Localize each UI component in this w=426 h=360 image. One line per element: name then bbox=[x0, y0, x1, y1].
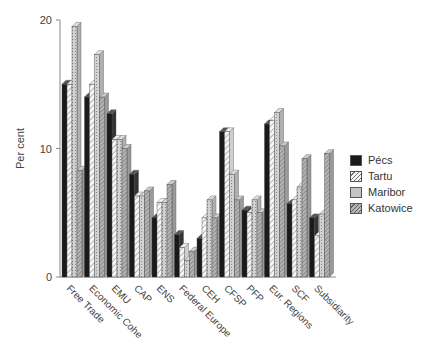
bar-group bbox=[242, 196, 266, 277]
y-tick-label: 0 bbox=[46, 271, 52, 283]
bar-group bbox=[220, 128, 244, 277]
legend-label: Pécs bbox=[368, 154, 392, 166]
bar bbox=[242, 210, 247, 277]
bar-group bbox=[265, 109, 289, 277]
bar-group bbox=[310, 150, 334, 277]
bar bbox=[257, 213, 262, 277]
katowice-swatch-icon bbox=[350, 203, 362, 214]
bar bbox=[252, 200, 257, 277]
bar bbox=[62, 84, 67, 277]
legend-label: Katowice bbox=[368, 202, 413, 214]
bar bbox=[292, 200, 297, 277]
x-category-label: ENS bbox=[155, 283, 178, 306]
bar bbox=[302, 159, 307, 277]
y-tick-label: 10 bbox=[40, 143, 52, 155]
x-category-label: Subsidiarity bbox=[312, 283, 356, 327]
bar bbox=[107, 114, 112, 277]
bar bbox=[140, 196, 145, 277]
legend-label: Tartu bbox=[368, 170, 392, 182]
bar bbox=[212, 218, 217, 277]
bar bbox=[275, 113, 280, 277]
bar bbox=[190, 251, 195, 277]
bar bbox=[152, 218, 157, 277]
y-axis-title: Per cent bbox=[14, 128, 26, 169]
bar bbox=[247, 213, 252, 277]
bar bbox=[297, 187, 302, 277]
bar bbox=[135, 196, 140, 277]
bar-group bbox=[85, 51, 109, 277]
bar-groups bbox=[62, 22, 334, 277]
bar bbox=[180, 247, 185, 277]
bar bbox=[112, 140, 117, 277]
bar bbox=[145, 191, 150, 277]
bar bbox=[230, 174, 235, 277]
legend: Pécs Tartu Maribor Katowice bbox=[350, 152, 413, 216]
bar bbox=[85, 97, 90, 277]
bar-group bbox=[62, 22, 86, 277]
legend-item-katowice: Katowice bbox=[350, 200, 413, 216]
bar bbox=[325, 154, 330, 277]
bar bbox=[270, 120, 275, 277]
bar-group bbox=[152, 180, 176, 277]
bar bbox=[95, 55, 100, 277]
x-category-label: CAP bbox=[132, 283, 155, 306]
bar bbox=[310, 218, 315, 277]
bar-group bbox=[197, 196, 221, 277]
bar-group bbox=[107, 110, 131, 277]
x-axis-labels: Free TradeEconomic CoheEMUCAPENSFederal … bbox=[65, 283, 357, 341]
bar bbox=[162, 202, 167, 277]
bar bbox=[175, 235, 180, 277]
bar bbox=[130, 174, 135, 277]
legend-item-pecs: Pécs bbox=[350, 152, 413, 168]
bar bbox=[202, 218, 207, 277]
bar bbox=[157, 202, 162, 277]
bar bbox=[117, 140, 122, 277]
bar bbox=[207, 200, 212, 277]
legend-label: Maribor bbox=[368, 186, 405, 198]
bar-group bbox=[175, 231, 199, 277]
bar bbox=[220, 132, 225, 277]
bar-group bbox=[287, 155, 311, 277]
bar bbox=[235, 200, 240, 277]
bar bbox=[77, 170, 82, 277]
bar bbox=[280, 146, 285, 277]
bar bbox=[72, 26, 77, 277]
maribor-swatch-icon bbox=[350, 187, 362, 198]
bar bbox=[67, 84, 72, 277]
x-category-label: CFSP bbox=[222, 283, 249, 310]
bar bbox=[265, 124, 270, 277]
bar bbox=[225, 132, 230, 277]
bar bbox=[90, 84, 95, 277]
bar bbox=[122, 149, 127, 278]
tartu-swatch-icon bbox=[350, 171, 362, 182]
bar bbox=[185, 260, 190, 277]
bar bbox=[100, 97, 105, 277]
bar bbox=[167, 184, 172, 277]
bar bbox=[287, 204, 292, 277]
legend-item-tartu: Tartu bbox=[350, 168, 413, 184]
pecs-swatch-icon bbox=[350, 155, 362, 166]
bar bbox=[320, 214, 325, 277]
y-tick-label: 20 bbox=[40, 14, 52, 26]
bar bbox=[315, 236, 320, 277]
bar-group bbox=[130, 170, 154, 277]
legend-item-maribor: Maribor bbox=[350, 184, 413, 200]
bar bbox=[197, 238, 202, 277]
